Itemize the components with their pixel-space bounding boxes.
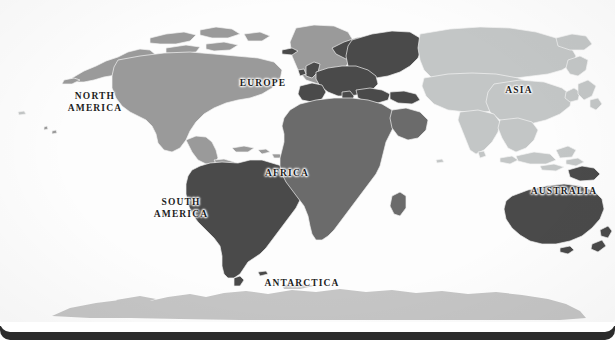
region-australia bbox=[504, 166, 612, 254]
world-map-graphic: .c-light { fill:#9a9a9a; stroke:#f4f4f4;… bbox=[0, 0, 615, 332]
region-africa bbox=[280, 98, 428, 240]
region-antarctica bbox=[52, 283, 586, 320]
region-asia bbox=[418, 27, 602, 171]
page-bottom-edge-highlight bbox=[0, 322, 615, 332]
world-map-figure: .c-light { fill:#9a9a9a; stroke:#f4f4f4;… bbox=[0, 0, 615, 340]
map-paper-sheet: .c-light { fill:#9a9a9a; stroke:#f4f4f4;… bbox=[0, 0, 615, 332]
